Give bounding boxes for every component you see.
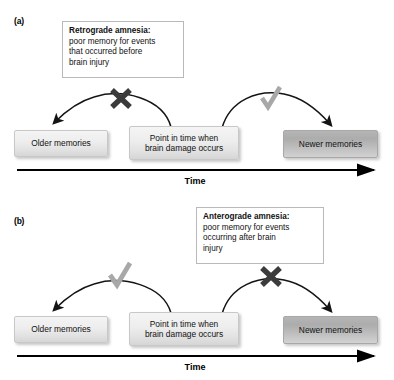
- time-axis-label: Time: [150, 176, 240, 186]
- time-axis-label: Time: [150, 362, 240, 372]
- panel-a-graphics: [0, 0, 394, 190]
- arc-to-older-memories: [55, 281, 171, 313]
- older-memories-box: Older memories: [14, 316, 108, 343]
- point-in-time-box: Point in time when brain damage occurs: [129, 126, 239, 160]
- x-mark-icon: [262, 268, 280, 285]
- panel-b-graphics: [0, 190, 394, 380]
- newer-memories-box: Newer memories: [283, 316, 378, 344]
- point-in-time-box: Point in time when brain damage occurs: [129, 312, 239, 346]
- check-mark-icon: [262, 87, 280, 107]
- panel-b: (b) Anterograde amnesia: poor memory for…: [0, 190, 394, 380]
- arc-to-older-memories: [55, 94, 171, 127]
- newer-memories-box: Newer memories: [283, 130, 378, 158]
- panel-a: (a) Retrograde amnesia: poor memory for …: [0, 0, 394, 190]
- older-memories-box: Older memories: [14, 130, 108, 157]
- x-mark-icon: [112, 90, 130, 107]
